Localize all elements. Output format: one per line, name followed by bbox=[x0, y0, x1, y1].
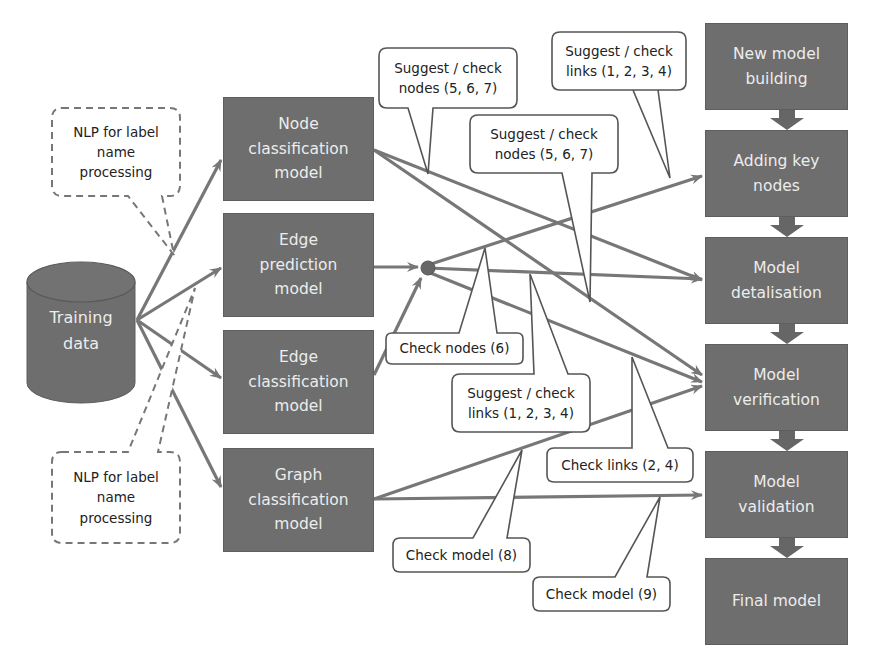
callout-links-1234-a-label: Suggest / check links (1, 2, 3, 4) bbox=[552, 32, 686, 90]
stage-adding-key-nodes-label: Adding key nodes bbox=[733, 149, 819, 199]
callout-links-24-label: Check links (2, 4) bbox=[547, 448, 693, 482]
stage-final-model: Final model bbox=[705, 558, 848, 645]
callout-nodes-567-a-label: Suggest / check nodes (5, 6, 7) bbox=[379, 48, 517, 108]
stage-new-model-building-label: New model building bbox=[733, 42, 820, 92]
arrow-graph-cls-to-validation bbox=[374, 495, 702, 499]
edge-classification-model-box: Edge classification model bbox=[223, 330, 374, 434]
node-classification-model-label: Node classification model bbox=[248, 112, 348, 186]
stage-model-validation: Model validation bbox=[705, 451, 848, 538]
node-classification-model-box: Node classification model bbox=[223, 97, 374, 201]
callout-model-8-label: Check model (8) bbox=[393, 538, 530, 572]
stage-model-verification-label: Model verification bbox=[733, 363, 820, 413]
stage-new-model-building: New model building bbox=[705, 23, 848, 110]
graph-classification-model-label: Graph classification model bbox=[248, 463, 348, 537]
stage-model-verification: Model verification bbox=[705, 344, 848, 431]
nlp-callout-top-label: NLP for label name processing bbox=[52, 108, 180, 196]
callout-nodes-6-label: Check nodes (6) bbox=[386, 333, 523, 364]
training-data-label: Training data bbox=[27, 305, 135, 358]
arrow-junction-to-detalisation bbox=[428, 268, 702, 279]
stage-adding-key-nodes: Adding key nodes bbox=[705, 130, 848, 217]
graph-classification-model-box: Graph classification model bbox=[223, 448, 374, 552]
stage-model-detalisation-label: Model detalisation bbox=[731, 256, 822, 306]
edge-prediction-model-label: Edge prediction model bbox=[260, 228, 338, 302]
callout-links-1234-b-label: Suggest / check links (1, 2, 3, 4) bbox=[452, 374, 590, 432]
edge-classification-model-label: Edge classification model bbox=[248, 345, 348, 419]
stage-model-validation-label: Model validation bbox=[738, 470, 814, 520]
stage-final-model-label: Final model bbox=[732, 589, 821, 614]
diagram-canvas: Training data Node classification model … bbox=[0, 0, 874, 663]
nlp-callout-bottom-label: NLP for label name processing bbox=[52, 452, 180, 543]
junction-node bbox=[421, 261, 435, 275]
stage-model-detalisation: Model detalisation bbox=[705, 237, 848, 324]
edge-prediction-model-box: Edge prediction model bbox=[223, 213, 374, 317]
callout-model-9-label: Check model (9) bbox=[533, 577, 670, 611]
callout-nodes-567-b-label: Suggest / check nodes (5, 6, 7) bbox=[470, 115, 618, 173]
